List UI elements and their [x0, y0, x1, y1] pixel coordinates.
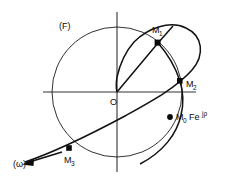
svg-text:Fe: Fe: [189, 112, 200, 122]
locus-curve-outer: [25, 25, 200, 162]
figure-container: (F) (ω) O M 1 M 2 M 3 M 0 Fe jρ: [0, 0, 229, 181]
label-M0-Fe-jrho: M 0 Fe jρ: [176, 110, 207, 124]
label-M2: M 2: [186, 79, 197, 91]
svg-text:2: 2: [193, 84, 197, 91]
label-origin-O: O: [110, 97, 117, 107]
point-marker-M2: [177, 78, 183, 84]
label-field-F: (F): [59, 21, 71, 31]
label-omega: (ω): [13, 159, 26, 169]
svg-text:jρ: jρ: [201, 110, 207, 118]
point-marker-M3: [66, 145, 72, 151]
svg-text:3: 3: [71, 160, 75, 167]
svg-text:1: 1: [159, 30, 163, 37]
locus-ray-from-origin: [117, 26, 173, 92]
locus-diagram-svg: (F) (ω) O M 1 M 2 M 3 M 0 Fe jρ: [0, 0, 229, 181]
point-marker-M1: [155, 40, 161, 46]
svg-text:0: 0: [183, 117, 187, 124]
point-marker-M0: [167, 114, 173, 120]
label-M3: M 3: [64, 155, 75, 167]
